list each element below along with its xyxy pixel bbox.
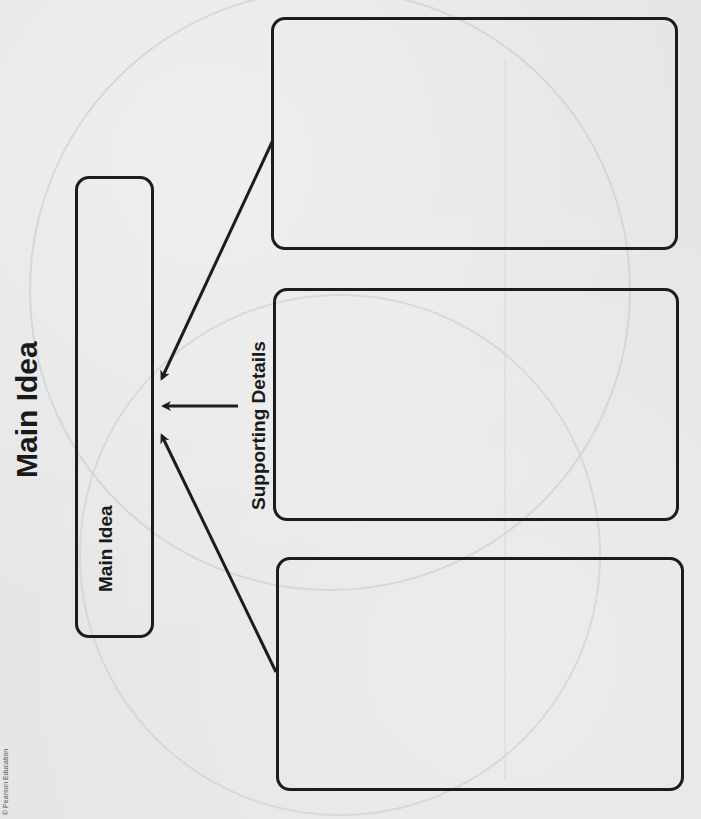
detail-box-middle[interactable] (273, 288, 679, 521)
worksheet-page: Main Idea Main Idea Supporting Details ©… (0, 0, 701, 819)
detail-box-bottom[interactable] (276, 557, 684, 791)
detail-box-top[interactable] (271, 17, 678, 250)
main-idea-label: Main Idea (95, 505, 117, 592)
supporting-details-label: Supporting Details (248, 341, 270, 510)
copyright-notice: © Pearson Education (2, 749, 9, 815)
page-title: Main Idea (10, 341, 44, 478)
